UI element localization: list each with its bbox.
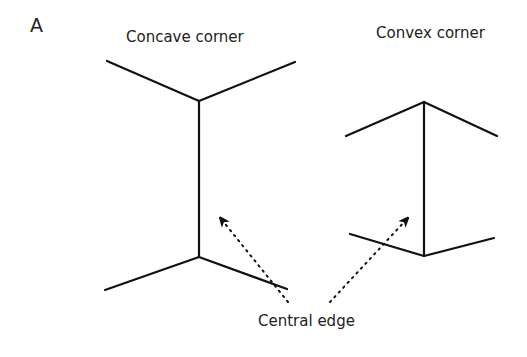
concave-top-left-arm [107,61,199,101]
arrow-to-convex-edge-icon [330,220,406,302]
convex-bottom-right-arm [424,238,494,256]
concave-bottom-left-arm [105,257,199,290]
diagram-canvas [0,0,527,357]
concave-bottom-right-arm [199,257,287,289]
concave-corner-figure [105,61,295,290]
convex-corner-figure [346,102,497,256]
concave-top-right-arm [199,62,295,101]
convex-top-left-arm [346,102,424,136]
convex-bottom-left-arm [350,234,424,256]
convex-top-right-arm [424,102,497,136]
arrow-to-concave-edge-icon [222,220,288,302]
dotted-arrows [222,220,406,302]
